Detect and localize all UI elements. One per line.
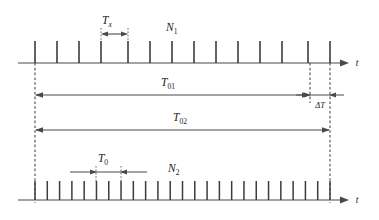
top-pulse-train [18,41,349,66]
t01-label: T01 [161,76,175,91]
diagram-canvas: Tx N1 T01 ΔT T02 T0 N2 t t [0,0,379,220]
t01-left-arrowhead [35,92,43,98]
t02-left-arrowhead [35,127,43,133]
n2-label: N2 [167,162,180,177]
tx-left-arrowhead [101,31,108,36]
top-axis-label: t [356,58,359,68]
delta-t-label: ΔT [314,100,326,110]
tx-dimension [101,28,128,44]
bottom-axis-arrowhead [340,197,349,204]
t02-right-arrowhead [322,127,330,133]
top-axis-arrowhead [340,60,349,67]
bottom-pulse-train [18,181,349,203]
t0-dimension [70,166,147,182]
pulse-train-diagram: Tx N1 T01 ΔT T02 T0 N2 t t [0,0,379,220]
t01-dimension [35,92,310,98]
tx-label: Tx [102,14,112,29]
t0-label: T0 [98,152,108,167]
tx-right-arrowhead [121,31,128,36]
t02-dimension [35,127,330,133]
t02-label: T02 [173,111,187,126]
dense-pulse-group [35,181,330,200]
diagram-labels: Tx N1 T01 ΔT T02 T0 N2 t t [98,14,359,205]
bottom-axis-label: t [356,195,359,205]
n1-label: N1 [165,21,178,36]
